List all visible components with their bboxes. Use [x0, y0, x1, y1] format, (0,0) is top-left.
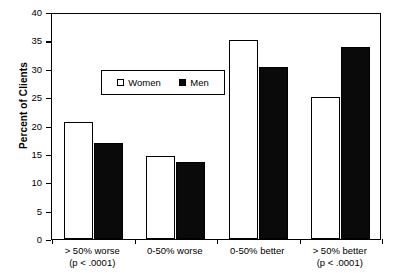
category-pvalue: (p < .0001)	[32, 257, 152, 269]
open-square-icon	[117, 79, 124, 86]
y-tick-label: 40	[2, 7, 42, 18]
y-tick-label: 20	[2, 121, 42, 132]
filled-square-icon	[179, 79, 186, 86]
bar-men-2	[176, 162, 205, 239]
x-axis-separator	[52, 239, 53, 244]
y-tick-label: 35	[2, 35, 42, 46]
y-tick-label: 0	[2, 234, 42, 245]
category-name: > 50% better	[313, 245, 367, 256]
plot-area	[51, 13, 381, 240]
legend-entry-women: Women	[117, 77, 161, 88]
bar-chart-figure: Percent of Clients 0510152025303540 > 50…	[0, 0, 405, 273]
category-pvalue: (p < .0001)	[280, 257, 400, 269]
bar-men-1	[94, 143, 123, 239]
legend-label-women: Women	[128, 77, 161, 88]
y-tick-label: 10	[2, 177, 42, 188]
legend-entry-men: Men	[179, 77, 208, 88]
category-name: > 50% worse	[65, 245, 120, 256]
x-axis-separator	[382, 239, 383, 244]
bar-women-1	[64, 122, 93, 239]
chart-legend: Women Men	[101, 70, 225, 95]
legend-label-men: Men	[190, 77, 208, 88]
category-name: 0-50% better	[230, 245, 284, 256]
bar-men-3	[259, 67, 288, 239]
x-axis-separator	[135, 239, 136, 244]
y-tick-label: 15	[2, 149, 42, 160]
bar-women-3	[229, 40, 258, 239]
y-tick-label: 30	[2, 64, 42, 75]
bar-women-2	[146, 156, 175, 239]
x-axis-separator	[300, 239, 301, 244]
y-tick-label: 25	[2, 92, 42, 103]
y-tick-mark	[46, 240, 51, 241]
bar-women-4	[311, 97, 340, 239]
bar-men-4	[341, 47, 370, 239]
x-category-label-4: > 50% better(p < .0001)	[280, 245, 400, 268]
x-axis-separator	[217, 239, 218, 244]
y-tick-label: 5	[2, 206, 42, 217]
category-name: 0-50% worse	[147, 245, 202, 256]
